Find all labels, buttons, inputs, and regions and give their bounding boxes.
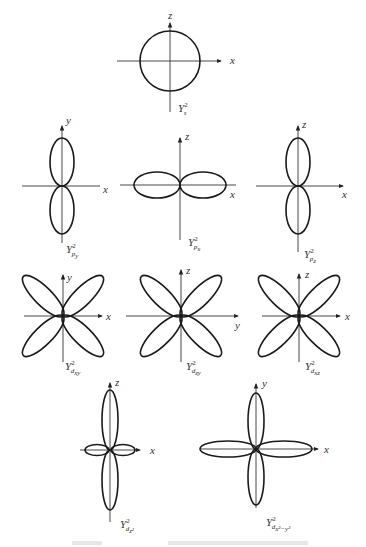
panel-px: x z Y2px — [120, 130, 236, 253]
function-label-dxz: Y2dxz — [305, 359, 320, 377]
x-axis-label: x — [323, 443, 329, 455]
function-label-dz2: Y2dz² — [120, 517, 135, 535]
z-axis-label: z — [185, 264, 191, 276]
x-axis-label: x — [149, 444, 155, 456]
function-label-s: Y2s — [178, 101, 188, 117]
x-axis-label: x — [341, 188, 347, 200]
z-axis-label: z — [114, 376, 120, 388]
panel-dxz: x z Y2dxz — [253, 268, 350, 377]
y-axis-label: y — [66, 271, 72, 283]
function-label-px: Y2px — [188, 235, 201, 253]
panel-dzy: y z Y2dzy — [126, 264, 240, 377]
panel-dxy: x y Y2dxy — [17, 270, 111, 377]
orbital-diagram: x z Y2s x y Y2py x z Y2px x z — [0, 0, 366, 547]
x-axis-label: x — [229, 54, 235, 66]
caption-remnant — [72, 541, 308, 545]
x-axis-label: x — [344, 310, 350, 322]
panel-dx2y2: x y Y2dx²−y² — [200, 377, 329, 533]
panel-py: x y Y2py — [22, 114, 108, 260]
panel-pz: x z Y2pz — [256, 118, 347, 265]
z-axis-label: z — [304, 268, 310, 280]
function-label-dzy: Y2dzy — [186, 359, 202, 377]
y-axis-label: y — [261, 377, 267, 389]
panel-s: x z Y2s — [117, 9, 235, 117]
z-axis-label: z — [184, 130, 190, 142]
function-label-pz: Y2pz — [304, 247, 316, 265]
z-axis-label: z — [301, 118, 307, 130]
function-label-py: Y2py — [66, 242, 79, 260]
y-axis-label: y — [234, 319, 240, 331]
function-label-dxy: Y2dxy — [65, 359, 81, 377]
y-axis-label: y — [65, 114, 71, 126]
x-axis-label: x — [102, 183, 108, 195]
x-axis-label: x — [105, 310, 111, 322]
z-axis-label: z — [167, 9, 173, 21]
x-axis-label: x — [229, 188, 235, 200]
panel-dz2: x z Y2dz² — [80, 376, 155, 535]
function-label-dx2y2: Y2dx²−y² — [266, 515, 291, 533]
